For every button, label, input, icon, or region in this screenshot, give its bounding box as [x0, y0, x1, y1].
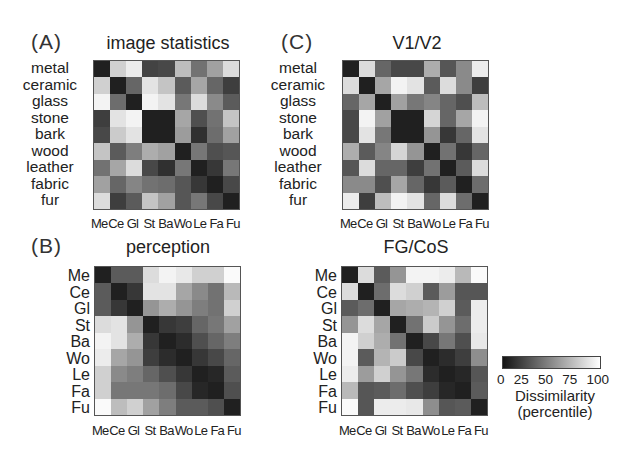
heatmap-cell — [142, 127, 158, 143]
colorbar-tick: 75 — [562, 372, 577, 387]
col-label: Fa — [208, 216, 225, 231]
col-label: St — [389, 423, 406, 438]
panel-b-letter: (B) — [31, 234, 62, 258]
heatmap-cell — [455, 300, 471, 316]
heatmap-cell — [95, 333, 111, 349]
heatmap-cell — [455, 399, 471, 415]
heatmap-cell — [192, 300, 208, 316]
heatmap-cell — [455, 267, 471, 283]
heatmap-cell — [439, 349, 455, 365]
heatmap-cell — [391, 127, 407, 143]
heatmap-cell — [176, 382, 192, 398]
heatmap-cell — [94, 193, 110, 209]
heatmap-cell — [407, 160, 423, 176]
heatmap-cell — [191, 110, 207, 126]
heatmap-cell — [143, 316, 159, 332]
col-label: Le — [439, 423, 456, 438]
col-label: Wo — [174, 216, 192, 231]
heatmap-cell — [424, 176, 440, 192]
heatmap-cell — [342, 316, 358, 332]
heatmap-cell — [126, 127, 142, 143]
heatmap-cell — [391, 176, 407, 192]
heatmap-cell — [391, 61, 407, 77]
heatmap-cell — [390, 399, 406, 415]
heatmap-cell — [111, 283, 127, 299]
heatmap-cell — [143, 399, 159, 415]
heatmap-cell — [94, 77, 110, 93]
heatmap-cell — [95, 399, 111, 415]
row-label: Me — [295, 268, 337, 285]
heatmap-cell — [110, 94, 126, 110]
heatmap-cell — [110, 127, 126, 143]
heatmap-cell — [223, 110, 239, 126]
heatmap-cell — [406, 366, 422, 382]
heatmap-cell — [192, 366, 208, 382]
heatmap-cell — [343, 193, 359, 209]
row-label: ceramic — [258, 77, 338, 94]
heatmap-cell — [208, 316, 224, 332]
panel-c-letter: (C) — [281, 30, 313, 54]
heatmap-cell — [176, 333, 192, 349]
heatmap-cell — [374, 333, 390, 349]
heatmap-cell — [472, 110, 488, 126]
heatmap-cell — [126, 77, 142, 93]
col-label: Wo — [423, 216, 441, 231]
heatmap-cell — [424, 193, 440, 209]
heatmap-cell — [472, 160, 488, 176]
heatmap-cell — [374, 283, 390, 299]
heatmap-cell — [439, 366, 455, 382]
heatmap-cell — [375, 176, 391, 192]
heatmap-cell — [375, 77, 391, 93]
row-label: metal — [258, 60, 338, 77]
heatmap-cell — [95, 349, 111, 365]
heatmap-cell — [110, 77, 126, 93]
heatmap-cell — [143, 349, 159, 365]
heatmap-cell — [143, 267, 159, 283]
heatmap-cell — [424, 61, 440, 77]
heatmap-cell — [471, 333, 487, 349]
panel-a-title: image statistics — [88, 33, 248, 54]
heatmap-cell — [455, 382, 471, 398]
row-label: Ce — [48, 285, 90, 302]
heatmap-cell — [359, 61, 375, 77]
heatmap-cell — [358, 349, 374, 365]
heatmap-cell — [143, 382, 159, 398]
col-label: Le — [191, 216, 208, 231]
heatmap-cell — [390, 333, 406, 349]
heatmap-cell — [456, 110, 472, 126]
heatmap-cell — [175, 110, 191, 126]
heatmap-fg-cos — [341, 266, 488, 416]
heatmap-cell — [424, 143, 440, 159]
row-label: Ba — [48, 334, 90, 351]
row-label: glass — [258, 93, 338, 110]
heatmap-cell — [175, 94, 191, 110]
heatmap-cell — [342, 366, 358, 382]
heatmap-cell — [342, 333, 358, 349]
heatmap-cell — [342, 382, 358, 398]
heatmap-cell — [406, 300, 422, 316]
heatmap-cell — [455, 333, 471, 349]
heatmap-cell — [358, 366, 374, 382]
heatmap-cell — [126, 61, 142, 77]
panel-b-col-labels: Me Ce Gl St Ba Wo Le Fa Fu — [92, 423, 242, 438]
heatmap-cell — [342, 283, 358, 299]
heatmap-cell — [455, 283, 471, 299]
heatmap-cell — [158, 127, 174, 143]
heatmap-cell — [192, 382, 208, 398]
row-label: Le — [295, 367, 337, 384]
heatmap-cell — [143, 300, 159, 316]
heatmap-cell — [142, 143, 158, 159]
heatmap-cell — [142, 94, 158, 110]
panel-b-title: perception — [88, 237, 248, 258]
heatmap-cell — [456, 143, 472, 159]
heatmap-cell — [358, 283, 374, 299]
heatmap-cell — [208, 333, 224, 349]
row-label: wood — [258, 143, 338, 160]
heatmap-cell — [440, 110, 456, 126]
heatmap-cell — [127, 333, 143, 349]
heatmap-cell — [358, 333, 374, 349]
panel-c-title: V1/V2 — [337, 33, 497, 54]
heatmap-cell — [126, 160, 142, 176]
heatmap-cell — [439, 316, 455, 332]
heatmap-cell — [207, 193, 223, 209]
